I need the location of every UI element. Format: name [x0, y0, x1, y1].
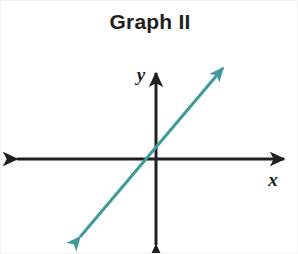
- x-axis-label: x: [267, 169, 278, 190]
- plotted-line-series: [80, 68, 223, 237]
- graph-figure: Graph II y x: [0, 0, 298, 254]
- y-axis-label: y: [135, 64, 146, 85]
- coordinate-plane-plot: y x: [1, 1, 298, 254]
